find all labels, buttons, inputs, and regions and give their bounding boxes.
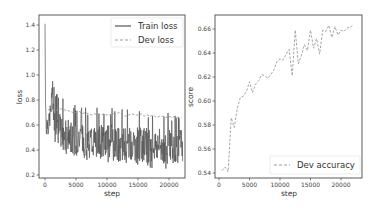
score-plot: 0.540.560.580.600.620.640.66 05000100001… <box>186 15 362 198</box>
loss-x-tick-label: 20000 <box>159 181 178 188</box>
score-y-tick-label: 0.56 <box>198 145 212 152</box>
loss-legend: Train loss Dev loss <box>111 18 183 47</box>
loss-y-tick-label: 0.6 <box>25 121 35 128</box>
loss-y-tick-label: 1.4 <box>25 21 35 28</box>
score-series <box>222 24 353 172</box>
score-y-tick-label: 0.66 <box>198 25 212 32</box>
loss-y-tick-label: 0.4 <box>25 146 35 153</box>
score-y-tick-label: 0.60 <box>198 97 212 104</box>
loss-x-tick-label: 15000 <box>128 181 147 188</box>
score-plot-frame <box>215 15 362 178</box>
score-x-axis-label: step <box>281 189 297 198</box>
score-y-tick-label: 0.64 <box>198 49 212 56</box>
loss-x-ticks: 05000100001500020000 <box>43 178 179 188</box>
loss-y-tick-label: 1.0 <box>25 71 35 78</box>
score-x-tick-label: 5000 <box>242 181 257 188</box>
train-loss-legend-label: Train loss <box>137 21 178 31</box>
loss-plot: 0.20.40.60.81.01.21.4 050001000015000200… <box>15 15 185 198</box>
score-y-tick-label: 0.62 <box>198 73 212 80</box>
score-y-tick-label: 0.58 <box>198 121 212 128</box>
loss-x-axis-label: step <box>104 189 120 198</box>
dev-loss-legend-label: Dev loss <box>138 35 174 45</box>
score-y-tick-label: 0.54 <box>198 169 212 176</box>
loss-y-ticks: 0.20.40.60.81.01.21.4 <box>25 21 39 178</box>
score-x-ticks: 05000100001500020000 <box>217 178 351 188</box>
loss-x-tick-label: 0 <box>43 181 47 188</box>
loss-x-tick-label: 10000 <box>97 181 116 188</box>
score-x-tick-label: 0 <box>217 181 221 188</box>
score-x-tick-label: 10000 <box>270 181 289 188</box>
chart-canvas: 0.20.40.60.81.01.21.4 050001000015000200… <box>0 0 379 211</box>
score-legend: Dev accuracy <box>270 156 360 174</box>
score-y-axis-label: score <box>186 87 195 108</box>
loss-y-tick-label: 0.8 <box>25 96 35 103</box>
loss-y-tick-label: 1.2 <box>25 46 35 53</box>
loss-x-tick-label: 5000 <box>68 181 83 188</box>
score-x-tick-label: 15000 <box>301 181 320 188</box>
loss-y-axis-label: loss <box>15 90 24 105</box>
loss-y-tick-label: 0.2 <box>25 171 35 178</box>
dev-accuracy-legend-label: Dev accuracy <box>297 160 355 170</box>
score-y-ticks: 0.540.560.580.600.620.640.66 <box>198 25 215 176</box>
dev-accuracy-line <box>222 24 353 172</box>
score-x-tick-label: 20000 <box>331 181 350 188</box>
